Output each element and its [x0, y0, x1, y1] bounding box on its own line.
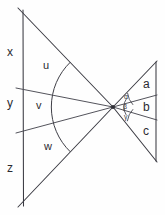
segment-label-z: z: [7, 162, 13, 174]
angle-label-beta: β: [123, 103, 127, 110]
ray-upper-outer: [18, 8, 113, 107]
geometry-figure: x y z u v w a b c α β γ: [0, 0, 165, 215]
ray-upper-inner: [16, 88, 113, 107]
segment-label-c: c: [143, 125, 149, 137]
left-vertical-axis: [23, 10, 24, 206]
segment-label-a: a: [143, 78, 150, 90]
big-angle-arc: [51, 62, 70, 151]
ray-lower-inner: [16, 107, 113, 133]
ray-right-mid-upper: [113, 95, 157, 107]
segment-label-b: b: [143, 101, 150, 113]
ray-right-upper: [113, 61, 157, 107]
segment-label-x: x: [7, 46, 13, 58]
ray-right-mid-lower: [113, 107, 157, 120]
angle-label-v: v: [36, 100, 42, 111]
ray-right-lower: [113, 107, 157, 162]
angle-label-u: u: [43, 60, 49, 71]
apex-point: [111, 105, 115, 109]
segment-label-y: y: [7, 97, 13, 109]
angle-label-w: w: [44, 141, 52, 152]
angle-label-gamma: γ: [124, 113, 128, 120]
ray-lower-outer: [18, 107, 113, 207]
figure-canvas: [0, 0, 165, 215]
angle-label-alpha: α: [124, 93, 128, 100]
